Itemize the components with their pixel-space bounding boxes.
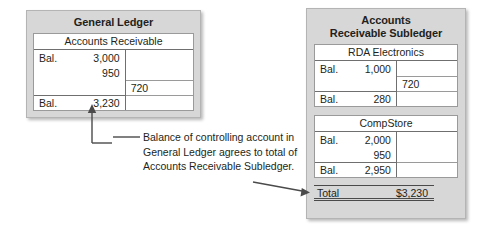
- row-label: Bal.: [320, 63, 338, 75]
- table-row: Bal. 3,000: [34, 50, 193, 65]
- row-label: Bal.: [320, 164, 338, 176]
- t-account-rda-electronics: RDA Electronics Bal. 1,000 720: [314, 44, 458, 107]
- credit-cell: [396, 132, 457, 147]
- subledger-title-line2: Receivable Subledger: [314, 27, 458, 40]
- arrow-to-subledger-total: [253, 182, 310, 197]
- subledger-title-line1: Accounts: [314, 14, 458, 27]
- debit-amount: 950: [373, 149, 391, 161]
- debit-cell: Bal. 1,000: [315, 61, 396, 76]
- t-account-header-accounts-receivable: Accounts Receivable: [34, 34, 193, 50]
- general-ledger-panel: General Ledger Accounts Receivable Bal. …: [26, 10, 201, 118]
- subledger-total-row: Total $3,230: [314, 185, 434, 201]
- debit-cell: Bal. 280: [315, 91, 396, 106]
- t-account-body-rda-electronics: Bal. 1,000 720 Bal. 280: [315, 61, 457, 106]
- table-row: Bal. 1,000: [315, 61, 457, 76]
- table-row: 950: [315, 147, 457, 162]
- credit-cell: [125, 65, 193, 80]
- t-account-header-compstore: CompStore: [315, 116, 457, 132]
- subledger-title: Accounts Receivable Subledger: [314, 14, 458, 44]
- credit-cell: 720: [125, 80, 193, 95]
- table-row: Bal. 3,230: [34, 95, 193, 110]
- t-account-compstore: CompStore Bal. 2,000 950: [314, 115, 458, 178]
- debit-cell: Bal. 2,950: [315, 162, 396, 177]
- debit-cell: 950: [315, 147, 396, 162]
- table-row: Bal. 2,950: [315, 162, 457, 177]
- debit-amount: 280: [373, 93, 391, 105]
- t-account-body-compstore: Bal. 2,000 950 Bal. 2,950: [315, 132, 457, 177]
- credit-cell: [396, 91, 457, 106]
- row-label: Bal.: [39, 97, 57, 109]
- debit-cell: [315, 76, 396, 91]
- credit-cell: [125, 50, 193, 65]
- debit-cell: 950: [34, 65, 125, 80]
- credit-cell: [396, 162, 457, 177]
- credit-cell: 720: [396, 76, 457, 91]
- debit-amount: 3,230: [93, 97, 119, 109]
- credit-amount: 720: [402, 78, 420, 90]
- total-amount: $3,230: [396, 187, 428, 199]
- general-ledger-title: General Ledger: [33, 16, 194, 33]
- table-row: 720: [315, 76, 457, 91]
- row-label: Bal.: [320, 134, 338, 146]
- row-label: Bal.: [320, 93, 338, 105]
- table-row: Bal. 280: [315, 91, 457, 106]
- debit-amount: 1,000: [365, 63, 391, 75]
- total-label: Total: [317, 187, 339, 199]
- debit-amount: 2,000: [365, 134, 391, 146]
- debit-cell: [34, 80, 125, 95]
- row-label: Bal.: [39, 52, 57, 64]
- debit-cell: Bal. 2,000: [315, 132, 396, 147]
- credit-cell: [125, 95, 193, 110]
- credit-amount: 720: [131, 82, 149, 94]
- t-account-body-accounts-receivable: Bal. 3,000 950: [34, 50, 193, 110]
- debit-cell: Bal. 3,230: [34, 95, 125, 110]
- table-row: 950: [34, 65, 193, 80]
- t-account-header-rda-electronics: RDA Electronics: [315, 45, 457, 61]
- credit-cell: [396, 147, 457, 162]
- debit-amount: 3,000: [93, 52, 119, 64]
- table-row: 720: [34, 80, 193, 95]
- t-account-accounts-receivable: Accounts Receivable Bal. 3,000 950: [33, 33, 194, 111]
- annotation-callout-text: Balance of controlling account in Genera…: [143, 130, 318, 174]
- debit-amount: 2,950: [365, 164, 391, 176]
- table-row: Bal. 2,000: [315, 132, 457, 147]
- credit-cell: [396, 61, 457, 76]
- debit-cell: Bal. 3,000: [34, 50, 125, 65]
- debit-amount: 950: [102, 67, 120, 79]
- accounts-receivable-subledger-panel: Accounts Receivable Subledger RDA Electr…: [306, 8, 466, 219]
